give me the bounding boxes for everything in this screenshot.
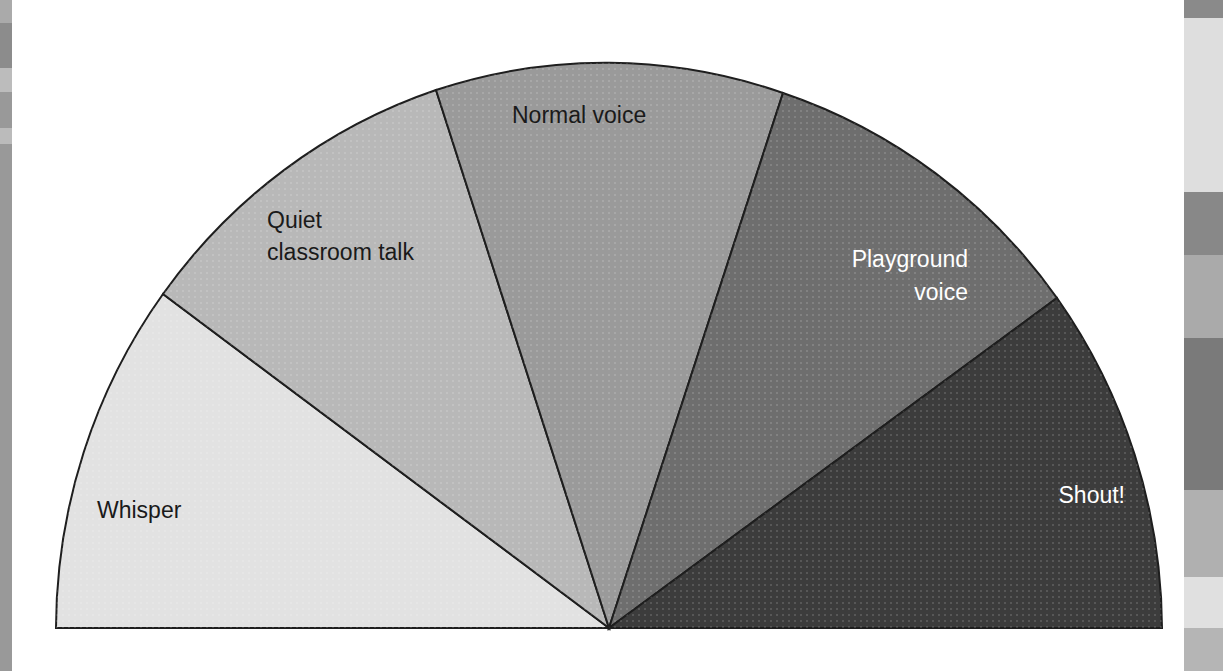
label-normal: Normal voice (512, 102, 646, 128)
label-quiet-line1: Quiet (267, 207, 323, 233)
voice-level-meter: Whisper Quiet classroom talk Normal voic… (0, 0, 1223, 671)
label-shout: Shout! (1059, 482, 1126, 508)
label-quiet-line2: classroom talk (267, 239, 414, 265)
label-whisper: Whisper (97, 497, 182, 523)
label-playground-line1: Playground (852, 246, 968, 272)
label-playground-line2: voice (914, 279, 968, 305)
